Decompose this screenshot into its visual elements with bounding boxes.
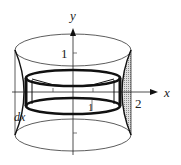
x-tick-label-1: 1 bbox=[88, 101, 94, 113]
x-axis-arrow-icon bbox=[150, 89, 158, 95]
x-tick-label-2: 2 bbox=[135, 96, 142, 111]
dx-label: dx bbox=[14, 110, 26, 124]
y-axis-arrow-icon bbox=[70, 28, 76, 36]
x-axis-label: x bbox=[163, 85, 170, 100]
shell-method-diagram: y x 1 2 1 dx bbox=[0, 0, 181, 165]
y-tick-label-1: 1 bbox=[61, 46, 68, 61]
y-axis-label: y bbox=[68, 8, 76, 23]
